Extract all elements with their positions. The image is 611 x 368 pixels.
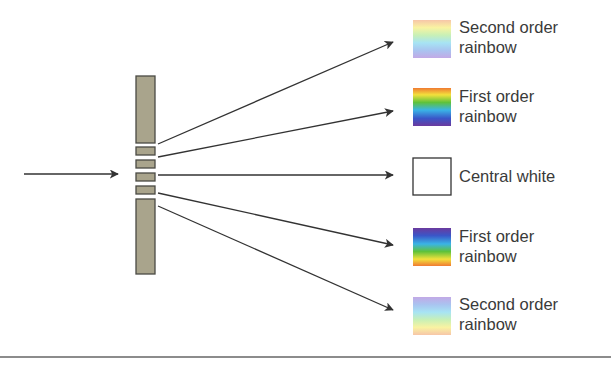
label-line: rainbow	[459, 314, 558, 334]
second-order-bottom-swatch	[413, 297, 451, 335]
second-order-bottom-ray	[158, 206, 393, 310]
second-order-top-swatch	[413, 20, 451, 58]
horizontal-divider	[0, 356, 611, 358]
first-order-top-swatch	[413, 88, 451, 126]
central-white-label: Central white	[459, 166, 555, 186]
label-line: rainbow	[459, 106, 534, 126]
second-order-top-label: Second order rainbow	[459, 17, 558, 57]
first-order-top-ray	[158, 111, 393, 157]
label-line: First order	[459, 226, 534, 246]
label-line: Central white	[459, 166, 555, 186]
label-line: First order	[459, 86, 534, 106]
central-white-swatch	[413, 158, 451, 195]
first-order-bottom-ray	[158, 193, 393, 245]
first-order-bottom-swatch	[413, 228, 451, 266]
label-line: Second order	[459, 17, 558, 37]
first-order-bottom-label: First order rainbow	[459, 226, 534, 266]
diffraction-grating	[136, 76, 155, 274]
label-line: rainbow	[459, 37, 558, 57]
second-order-top-ray	[158, 42, 393, 144]
second-order-bottom-label: Second order rainbow	[459, 294, 558, 334]
label-line: rainbow	[459, 246, 534, 266]
first-order-top-label: First order rainbow	[459, 86, 534, 126]
label-line: Second order	[459, 294, 558, 314]
